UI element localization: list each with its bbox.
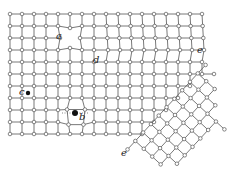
rotated-grain (126, 63, 226, 166)
label-d-dislocation: d (93, 55, 99, 65)
label-e-grain-boundary-bottom: e (121, 148, 127, 158)
impurity-atom-c (26, 91, 30, 95)
label-e-grain-boundary-top: e (197, 45, 203, 55)
interstitial-atom-b (72, 110, 78, 116)
label-b-interstitial: b (79, 112, 85, 122)
label-c-impurity: c (19, 87, 25, 97)
crystal-lattice-diagram (0, 0, 236, 178)
lattice-bonds (10, 14, 214, 134)
label-a-vacancy: a (56, 31, 62, 41)
